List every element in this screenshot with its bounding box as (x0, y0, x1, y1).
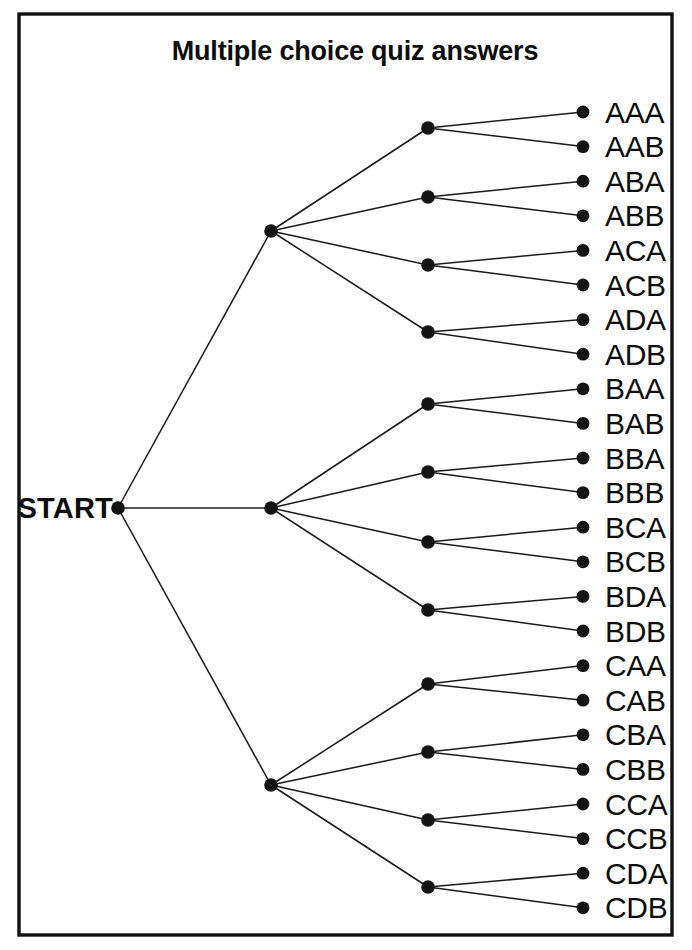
leaf-label-caa: CAA (605, 649, 666, 682)
leaf-dot-acb (577, 279, 590, 292)
edge-caa (428, 666, 583, 684)
node-level2-ab (421, 190, 435, 204)
leaf-label-cca: CCA (605, 788, 668, 821)
edge-bdb (428, 610, 583, 631)
edge-bbb (428, 472, 583, 493)
edge-adb (428, 332, 583, 354)
edge-ba (271, 404, 428, 508)
edge-baa (428, 389, 583, 404)
leaf-label-ccb: CCB (605, 822, 667, 855)
start-node-dot (111, 501, 125, 515)
edge-ab (271, 197, 428, 231)
node-level2-bb (421, 465, 435, 479)
leaf-label-bba: BBA (605, 442, 664, 475)
node-level2-bc (421, 535, 435, 549)
node-level2-ad (421, 325, 435, 339)
leaf-dot-bca (577, 521, 590, 534)
node-level1-a (264, 224, 278, 238)
leaf-dot-cda (577, 867, 590, 880)
tree-diagram-canvas: Multiple choice quiz answers AAAAABABAAB… (0, 0, 692, 950)
edge-cba (428, 735, 583, 752)
node-level2-ca (421, 677, 435, 691)
tree-leaf-labels: AAAAABABAABBACAACBADAADBBAABABBBABBBBCAB… (605, 96, 668, 925)
node-level2-cc (421, 813, 435, 827)
leaf-dot-cbb (577, 763, 590, 776)
edge-bab (428, 404, 583, 423)
tree-edges (118, 112, 583, 908)
leaf-label-baa: BAA (605, 372, 664, 405)
leaf-dot-caa (577, 659, 590, 672)
leaf-label-bca: BCA (605, 511, 666, 544)
leaf-dot-cca (577, 798, 590, 811)
tree-leaf-nodes (577, 106, 590, 915)
edge-bcb (428, 542, 583, 562)
edge-cda (428, 873, 583, 887)
leaf-label-aca: ACA (605, 234, 666, 267)
leaf-dot-aba (577, 175, 590, 188)
tree-diagram-figure: Multiple choice quiz answers AAAAABABAAB… (0, 0, 692, 950)
node-level2-cb (421, 745, 435, 759)
edge-root-c (118, 508, 271, 785)
edge-aab (428, 128, 583, 147)
leaf-dot-ada (577, 313, 590, 326)
edge-bba (428, 458, 583, 472)
leaf-label-bbb: BBB (605, 476, 664, 509)
leaf-dot-abb (577, 209, 590, 222)
leaf-dot-ccb (577, 832, 590, 845)
edge-cbb (428, 752, 583, 769)
node-level2-ac (421, 258, 435, 272)
node-level1-b (264, 501, 278, 515)
edge-aa (271, 128, 428, 231)
leaf-dot-baa (577, 382, 590, 395)
edge-acb (428, 265, 583, 285)
leaf-label-acb: ACB (605, 269, 666, 302)
node-level1-c (264, 778, 278, 792)
edge-ca (271, 684, 428, 785)
leaf-dot-bdb (577, 625, 590, 638)
edge-cb (271, 752, 428, 785)
leaf-dot-cba (577, 728, 590, 741)
leaf-label-cab: CAB (605, 684, 666, 717)
leaf-dot-bbb (577, 486, 590, 499)
edge-bca (428, 527, 583, 542)
leaf-label-cba: CBA (605, 718, 666, 751)
edge-abb (428, 197, 583, 216)
edge-bda (428, 596, 583, 610)
figure-border (19, 14, 672, 935)
edge-bc (271, 508, 428, 542)
edge-bd (271, 508, 428, 610)
leaf-label-bab: BAB (605, 407, 664, 440)
edge-ac (271, 231, 428, 265)
edge-bb (271, 472, 428, 508)
leaf-dot-aab (577, 140, 590, 153)
leaf-label-aaa: AAA (605, 96, 664, 129)
leaf-dot-aaa (577, 106, 590, 119)
node-level2-aa (421, 121, 435, 135)
edge-cc (271, 785, 428, 820)
leaf-dot-aca (577, 244, 590, 257)
edge-cab (428, 684, 583, 700)
node-level2-bd (421, 603, 435, 617)
node-level2-cd (421, 880, 435, 894)
tree-nodes (264, 121, 435, 894)
leaf-label-cda: CDA (605, 857, 668, 890)
start-node-label: START (17, 492, 113, 524)
leaf-label-aab: AAB (605, 130, 664, 163)
leaf-dot-bab (577, 417, 590, 430)
leaf-label-aba: ABA (605, 165, 664, 198)
edge-ccb (428, 820, 583, 839)
leaf-dot-cab (577, 694, 590, 707)
leaf-label-cdb: CDB (605, 891, 667, 924)
edge-root-a (118, 231, 271, 508)
leaf-dot-bcb (577, 555, 590, 568)
leaf-label-abb: ABB (605, 199, 664, 232)
node-level2-ba (421, 397, 435, 411)
leaf-dot-bda (577, 590, 590, 603)
edge-cd (271, 785, 428, 887)
edge-ada (428, 320, 583, 332)
leaf-dot-bba (577, 452, 590, 465)
edge-cdb (428, 887, 583, 908)
leaf-label-bda: BDA (605, 580, 666, 613)
leaf-label-bcb: BCB (605, 545, 666, 578)
edge-aba (428, 181, 583, 197)
